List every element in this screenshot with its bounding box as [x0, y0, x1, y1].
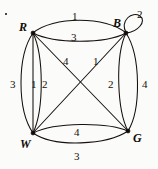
edge-label-W-G-upper: 4: [74, 127, 80, 138]
edge-label-R-B-upper: 1: [72, 11, 78, 22]
vertex-label-B: B: [113, 17, 121, 29]
vertex-dot-R: [31, 31, 35, 35]
vertex-label-W: W: [20, 138, 31, 150]
edge-label-B-self-loop: 2: [137, 9, 143, 20]
edge-B-G-left-arc: [119, 33, 128, 131]
page-speck: [5, 13, 7, 15]
edge-R-B-lower: [33, 33, 126, 41]
edge-label-R-B-lower: 3: [71, 32, 77, 43]
vertex-dot-W: [31, 131, 35, 135]
edge-W-G-lower: [33, 131, 128, 143]
vertex-dot-G: [126, 129, 130, 133]
edge-label-R-W-straight: 1: [31, 79, 37, 90]
edge-label-W-G-lower: 3: [74, 151, 80, 162]
edge-B-G-right-arc: [126, 33, 138, 131]
edge-W-G-upper: [33, 124, 128, 133]
edge-label-R-W-left: 3: [10, 79, 16, 90]
edge-label-B-W-diagonal: 1: [93, 56, 99, 67]
edge-label-R-W-right: 2: [42, 79, 48, 90]
edge-label-B-G-right: 4: [142, 79, 148, 90]
vertex-dot-B: [124, 31, 128, 35]
graph-figure: R B W G 1 3 2 3 1 2 2 4 4 1 4 3: [0, 0, 158, 169]
edge-label-R-G-diagonal: 4: [63, 56, 69, 67]
vertex-label-G: G: [133, 132, 142, 144]
vertex-label-R: R: [19, 21, 27, 33]
edge-label-B-G-left: 2: [108, 79, 114, 90]
